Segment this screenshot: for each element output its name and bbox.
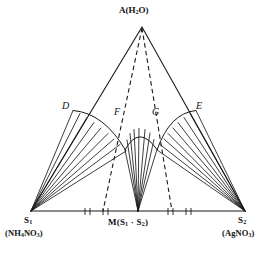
arc-point-label-G: G [152,107,159,118]
tie-line [31,139,114,211]
apex-label-A: A(H2O) [119,6,149,16]
tie-line [184,118,245,212]
vertex-label-S2: S2 [238,216,246,226]
arc-point-label-D: D [62,101,69,112]
tie-line [157,150,245,211]
dashed-boundary-lines [103,28,172,211]
tie-line [173,128,245,211]
right-arc-GE [157,111,196,151]
tie-line [31,145,120,212]
arc-point-label-E: E [196,101,202,112]
arc-point-label-F: F [114,107,120,118]
tie-line [31,151,126,211]
tie-line [164,139,245,211]
vertex-formula-S2: (AgNO3) [222,229,254,238]
dashed-line-left [103,28,142,211]
vertex-formula-S1: (NH4NO3) [5,229,43,238]
tie-line [138,140,154,212]
left-fan-rays [31,111,126,212]
tie-line [168,134,245,212]
tie-line [190,114,245,212]
vertex-label-M: M(S1 · S2) [108,218,148,228]
tie-line [196,111,245,212]
center-fan-rays [125,129,157,212]
tie-line [125,150,138,211]
ternary-phase-diagram: A(H2O) D F G E S1 (NH4NO3) M(S1 · S2) S2… [0,0,276,255]
tie-line [31,134,108,212]
vertex-label-S1: S1 [24,216,32,226]
tie-line [31,118,87,212]
tie-line [130,134,138,212]
